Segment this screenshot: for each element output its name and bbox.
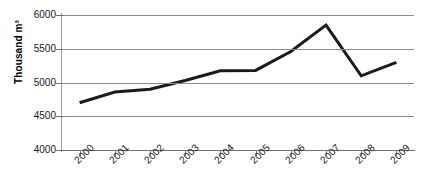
line-chart: Thousand m³ 40004500500055006000 2000200… xyxy=(0,0,428,195)
gridline-y-6000 xyxy=(62,15,414,16)
y-tickmark-4500 xyxy=(56,116,63,117)
gridline-y-4500 xyxy=(62,116,414,117)
gridline-y-5000 xyxy=(62,83,414,84)
gridline-y-5500 xyxy=(62,49,414,50)
y-tick-label-4000: 4000 xyxy=(22,145,56,155)
y-tickmark-5000 xyxy=(56,83,63,84)
plot-area xyxy=(62,15,414,150)
y-tick-label-5500: 5500 xyxy=(22,44,56,54)
y-tickmark-6000 xyxy=(56,15,63,16)
y-tickmark-4000 xyxy=(56,150,63,151)
y-tick-label-5000: 5000 xyxy=(22,78,56,88)
y-tick-label-6000: 6000 xyxy=(22,10,56,20)
y-tickmark-5500 xyxy=(56,49,63,50)
y-tick-label-4500: 4500 xyxy=(22,111,56,121)
y-axis-tick-labels: 40004500500055006000 xyxy=(22,0,56,195)
